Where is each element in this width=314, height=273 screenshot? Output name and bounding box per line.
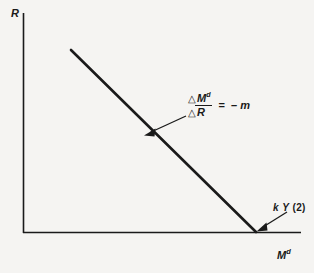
slope-numerator-variable-superscript: d: [206, 91, 210, 99]
curve-label-paren: (2): [292, 202, 305, 213]
slope-right-hand-side: – m: [231, 100, 250, 111]
slope-denominator-variable: R: [197, 107, 205, 118]
slope-equals-sign: =: [219, 100, 225, 111]
curve-label-y: Y: [282, 202, 289, 213]
slope-fraction: △Md △R: [187, 93, 212, 118]
economics-diagram: R Md k Y (2) △Md △R = – m: [0, 0, 314, 273]
slope-numerator-variable-base: M: [197, 92, 206, 104]
slope-fraction-denominator: △R: [187, 107, 212, 118]
x-axis-label: Md: [277, 250, 291, 261]
curve-label-arrow: [257, 212, 288, 232]
curve-label-k: k: [273, 202, 279, 213]
slope-numerator-variable: Md: [197, 93, 211, 104]
curve-endpoint-label: k Y (2): [273, 203, 306, 213]
money-demand-curve: [71, 50, 256, 232]
diagram-canvas: [0, 0, 314, 273]
x-axis-label-base: M: [277, 249, 286, 261]
slope-annotation: △Md △R = – m: [187, 93, 250, 118]
delta-icon-denominator: △: [188, 108, 196, 118]
slope-fraction-numerator: △Md: [187, 93, 212, 104]
delta-icon-numerator: △: [188, 94, 196, 104]
x-axis-label-superscript: d: [286, 247, 291, 256]
y-axis-label: R: [11, 8, 19, 19]
